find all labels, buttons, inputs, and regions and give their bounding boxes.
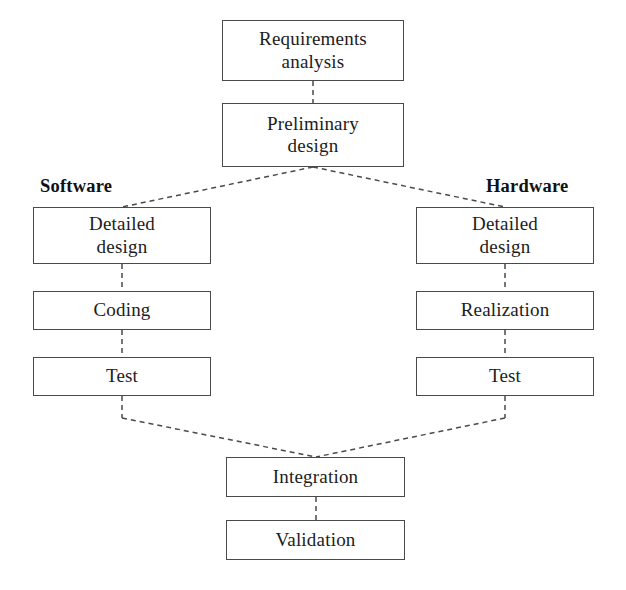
flowchart-diagram: Requirements analysis Preliminary design… (0, 0, 626, 590)
node-hardware-realization: Realization (416, 291, 594, 330)
node-requirements-analysis: Requirements analysis (222, 20, 404, 81)
edge-software-to-integration (122, 418, 316, 457)
node-validation: Validation (226, 520, 405, 560)
edge-preliminary-to-software (122, 167, 313, 207)
node-software-detailed-design: Detailed design (33, 207, 211, 264)
node-preliminary-design: Preliminary design (222, 103, 404, 167)
node-hardware-detailed-design: Detailed design (416, 207, 594, 264)
column-label-hardware: Hardware (486, 176, 568, 197)
node-software-coding: Coding (33, 291, 211, 330)
node-software-test: Test (33, 357, 211, 396)
edge-hardware-to-integration (316, 418, 505, 457)
column-label-software: Software (40, 176, 112, 197)
node-hardware-test: Test (416, 357, 594, 396)
edge-preliminary-to-hardware (313, 167, 505, 207)
node-integration: Integration (226, 457, 405, 497)
